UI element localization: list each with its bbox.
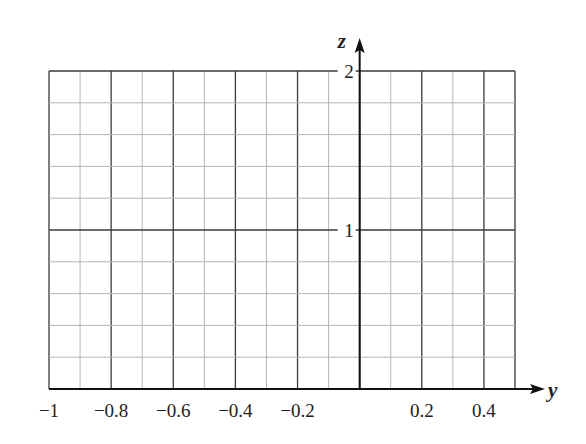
x-axis-label: y: [545, 378, 558, 402]
blank-grid-chart: yz−1−0.8−0.6−0.4−0.20.20.412: [0, 0, 586, 444]
x-tick-label: 0.4: [472, 400, 496, 421]
grid: [49, 71, 515, 389]
x-tick-label: −0.8: [94, 400, 128, 421]
x-tick-label: −1: [39, 400, 59, 421]
z-tick-label: 1: [344, 220, 354, 241]
x-tick-label: 0.2: [410, 400, 434, 421]
x-tick-label: −0.2: [280, 400, 314, 421]
z-tick-label: 2: [344, 61, 354, 82]
x-tick-label: −0.6: [156, 400, 190, 421]
z-axis-label: z: [337, 29, 347, 53]
x-tick-label: −0.4: [218, 400, 253, 421]
tick-labels: yz−1−0.8−0.6−0.4−0.20.20.412: [39, 29, 558, 421]
